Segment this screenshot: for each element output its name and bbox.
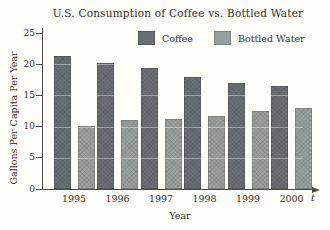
bar-chart-figure: U.S. Consumption of Coffee vs. Bottled W… <box>0 0 330 230</box>
bar-bottled-water-2000 <box>295 108 312 189</box>
x-tick-label-1998: 1998 <box>183 193 227 204</box>
chart-title: U.S. Consumption of Coffee vs. Bottled W… <box>28 7 328 19</box>
y-tick-label-5: 5 <box>16 152 35 163</box>
bar-coffee-1998 <box>184 77 201 189</box>
y-tick-20 <box>36 64 42 65</box>
bar-coffee-1997 <box>141 68 158 189</box>
bar-bottled-water-1997 <box>165 119 182 190</box>
y-axis-line <box>42 28 43 190</box>
x-tick-label-1995: 1995 <box>52 193 96 204</box>
gridline-20 <box>43 64 303 65</box>
y-tick-0 <box>36 189 42 190</box>
gridline-15 <box>43 95 303 96</box>
x-tick-label-1997: 1997 <box>139 193 183 204</box>
x-tick-label-1996: 1996 <box>96 193 140 204</box>
y-tick-25 <box>36 33 42 34</box>
x-axis-variable-label: t <box>306 192 320 203</box>
y-tick-5 <box>36 157 42 158</box>
y-tick-15 <box>36 95 42 96</box>
y-tick-label-20: 20 <box>16 59 35 70</box>
x-tick-label-1999: 1999 <box>226 193 270 204</box>
x-axis-title: Year <box>42 210 318 221</box>
bar-coffee-2000 <box>271 86 288 189</box>
gridline-5 <box>43 158 303 159</box>
bar-bottled-water-1996 <box>121 120 138 189</box>
bar-bottled-water-1999 <box>252 111 269 189</box>
y-tick-label-10: 10 <box>16 121 35 132</box>
bar-coffee-1995 <box>54 56 71 189</box>
bar-coffee-1999 <box>228 83 245 189</box>
y-tick-label-0: 0 <box>16 184 35 195</box>
gridline-10 <box>43 127 303 128</box>
y-tick-10 <box>36 126 42 127</box>
y-tick-label-15: 15 <box>16 90 35 101</box>
plot-area: 0510152025199519961997199819992000 <box>42 33 318 189</box>
y-tick-label-25: 25 <box>16 28 35 39</box>
